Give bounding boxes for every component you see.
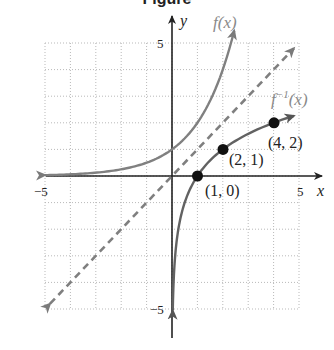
- point-label-4-2: (4, 2): [268, 134, 303, 152]
- f-inverse-label: f−1(x): [271, 88, 308, 109]
- point-label-1-0: (1, 0): [205, 182, 240, 200]
- point-1-0: [192, 171, 203, 182]
- f-label: f(x): [213, 13, 237, 32]
- f-curve: [45, 31, 234, 176]
- x-tick-neg5: −5: [34, 184, 48, 199]
- point-2-1: [218, 144, 229, 155]
- y-tick-5: 5: [157, 36, 164, 51]
- y-tick-neg5: −5: [150, 302, 164, 317]
- function-inverse-chart: −5 5 5 −5 x y f(x) f−1(x) (1, 0) (2, 1) …: [0, 0, 334, 350]
- point-label-2-1: (2, 1): [229, 151, 264, 169]
- x-tick-5: 5: [297, 184, 304, 199]
- point-4-2: [269, 117, 280, 128]
- x-axis-label: x: [316, 182, 324, 199]
- y-axis-label: y: [178, 12, 188, 30]
